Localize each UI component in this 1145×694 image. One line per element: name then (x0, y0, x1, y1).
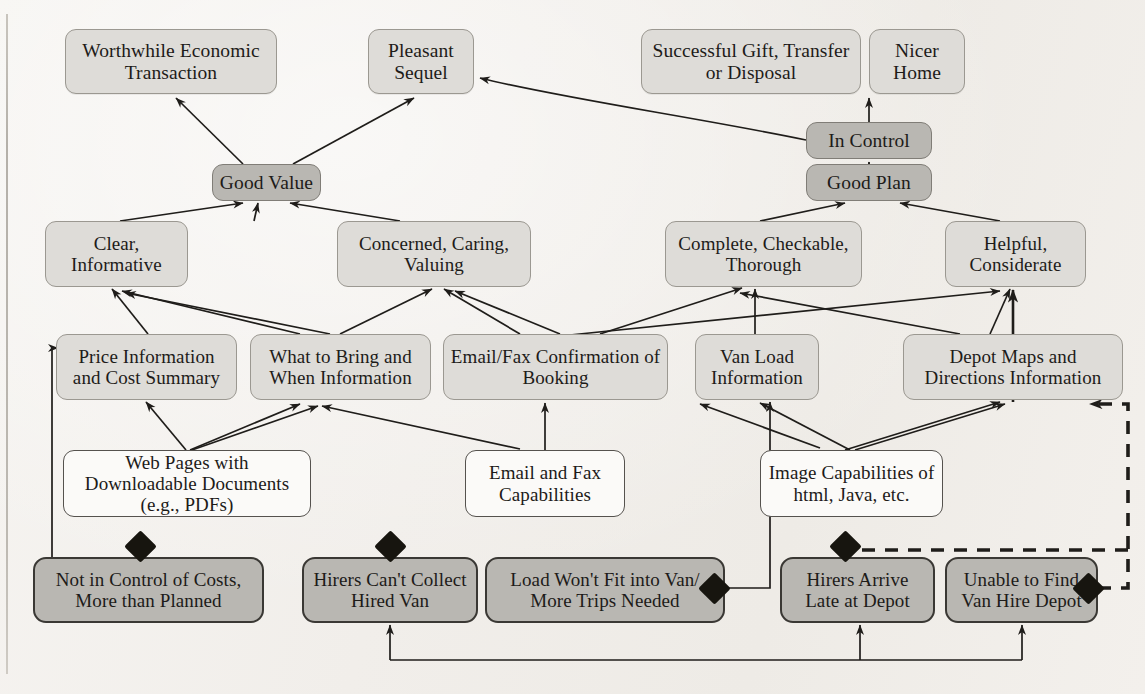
node-goodplan[interactable]: Good Plan (806, 164, 932, 201)
node-price[interactable]: Price Information and Cost Summary (56, 334, 237, 400)
node-nicer[interactable]: Nicer Home (869, 29, 965, 94)
node-label-helpful: Helpful, Considerate (952, 233, 1079, 276)
node-label-goodvalue: Good Value (220, 172, 313, 194)
node-complete[interactable]: Complete, Checkable, Thorough (665, 221, 862, 287)
node-label-price: Price Information and Cost Summary (63, 346, 230, 389)
node-label-imagecap: Image Capabilities of html, Java, etc. (767, 462, 936, 505)
node-successful[interactable]: Successful Gift, Transfer or Disposal (641, 29, 861, 94)
node-hirersarrive[interactable]: Hirers Arrive Late at Depot (780, 557, 935, 623)
node-label-emailfax: Email/Fax Confirmation of Booking (450, 346, 661, 389)
node-label-emailcap: Email and Fax Capabilities (472, 462, 618, 505)
node-concerned[interactable]: Concerned, Caring, Valuing (337, 221, 531, 287)
edge-dashed-rail-left (852, 546, 1128, 550)
node-label-notincontrol: Not in Control of Costs, More than Plann… (41, 569, 256, 612)
node-label-pleasant: Pleasant Sequel (375, 40, 467, 84)
node-whattobring[interactable]: What to Bring and When Information (250, 334, 431, 400)
node-depotmaps[interactable]: Depot Maps and Directions Information (903, 334, 1123, 400)
node-label-hirerscant: Hirers Can't Collect Hired Van (310, 569, 470, 612)
diagram-canvas: Worthwhile Economic TransactionPleasant … (0, 0, 1145, 694)
node-label-vanload: Van Load Information (702, 346, 812, 389)
node-label-successful: Successful Gift, Transfer or Disposal (648, 40, 854, 84)
node-label-nicer: Nicer Home (876, 40, 958, 84)
edge-unabletofind-to-depotmaps (1090, 404, 1128, 588)
node-label-concerned: Concerned, Caring, Valuing (344, 233, 524, 276)
node-notincontrol[interactable]: Not in Control of Costs, More than Plann… (33, 557, 264, 623)
node-emailfax[interactable]: Email/Fax Confirmation of Booking (443, 334, 668, 400)
node-label-whattobring: What to Bring and When Information (257, 346, 424, 389)
node-label-goodplan: Good Plan (827, 172, 911, 194)
node-hirerscant[interactable]: Hirers Can't Collect Hired Van (302, 557, 478, 623)
node-label-hirersarrive: Hirers Arrive Late at Depot (788, 569, 927, 612)
node-worthwhile[interactable]: Worthwhile Economic Transaction (65, 29, 277, 94)
node-label-depotmaps: Depot Maps and Directions Information (910, 346, 1116, 389)
node-goodvalue[interactable]: Good Value (212, 164, 321, 201)
node-clear[interactable]: Clear, Informative (45, 221, 188, 287)
node-vanload[interactable]: Van Load Information (695, 334, 819, 400)
node-label-unabletofind: Unable to Find Van Hire Depot (953, 569, 1090, 612)
edges-attributes-to-qualities (112, 288, 1010, 336)
node-label-clear: Clear, Informative (52, 233, 181, 276)
edge-bottom-rail (390, 625, 1022, 660)
node-label-loadwont: Load Won't Fit into Van/ More Trips Need… (493, 569, 717, 612)
node-incontrol[interactable]: In Control (806, 122, 932, 159)
node-label-webpages: Web Pages with Downloadable Documents (e… (70, 452, 304, 516)
node-label-complete: Complete, Checkable, Thorough (672, 233, 855, 276)
node-imagecap[interactable]: Image Capabilities of html, Java, etc. (760, 450, 943, 517)
node-helpful[interactable]: Helpful, Considerate (945, 221, 1086, 287)
node-pleasant[interactable]: Pleasant Sequel (368, 29, 474, 94)
node-webpages[interactable]: Web Pages with Downloadable Documents (e… (63, 450, 311, 517)
node-label-incontrol: In Control (828, 130, 910, 152)
node-emailcap[interactable]: Email and Fax Capabilities (465, 450, 625, 517)
edges-resources-to-attributes (146, 402, 1005, 450)
node-loadwont[interactable]: Load Won't Fit into Van/ More Trips Need… (485, 557, 725, 623)
node-label-worthwhile: Worthwhile Economic Transaction (72, 40, 270, 84)
